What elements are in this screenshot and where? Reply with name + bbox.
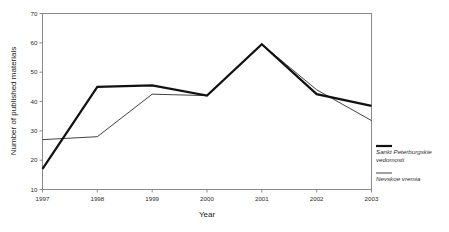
series-group: [43, 44, 372, 169]
legend-label: Nevskoe vremia: [376, 175, 421, 182]
chart-container: 10203040506070 1997199819992000200120022…: [0, 0, 449, 232]
x-tick-label: 2003: [365, 195, 379, 202]
x-axis: 1997199819992000200120022003: [36, 190, 379, 202]
legend-label: Sankt Peterburgskie: [376, 148, 432, 155]
x-tick-label: 1999: [145, 195, 159, 202]
x-axis-title: Year: [199, 210, 216, 219]
plot-frame: [43, 14, 372, 190]
x-tick-label: 2002: [310, 195, 324, 202]
y-axis-title: Number of published materials: [9, 47, 18, 156]
y-axis: 10203040506070: [31, 10, 43, 193]
series-line-bold: [43, 44, 372, 169]
y-tick-label: 60: [31, 39, 38, 46]
x-tick-label: 2000: [200, 195, 214, 202]
y-tick-label: 10: [31, 186, 38, 193]
y-tick-label: 20: [31, 156, 38, 163]
x-tick-label: 1997: [36, 195, 50, 202]
chart-legend: Sankt PeterburgskievedomostiNevskoe vrem…: [376, 146, 432, 182]
y-tick-label: 70: [31, 10, 38, 17]
x-tick-label: 2001: [255, 195, 269, 202]
y-tick-label: 40: [31, 98, 38, 105]
line-chart: 10203040506070 1997199819992000200120022…: [0, 0, 449, 232]
legend-label-continuation: vedomosti: [376, 156, 405, 163]
y-tick-label: 30: [31, 127, 38, 134]
series-line-thin: [43, 44, 372, 139]
x-tick-label: 1998: [90, 195, 104, 202]
y-tick-label: 50: [31, 68, 38, 75]
